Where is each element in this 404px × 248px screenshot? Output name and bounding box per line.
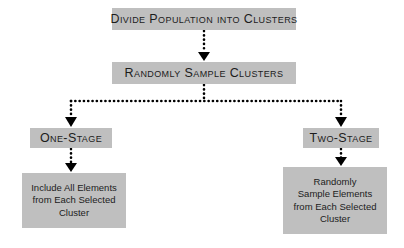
- arrowhead-one-stage: [65, 117, 77, 127]
- one-stage-detail-line-1: Include All Elements: [31, 182, 117, 195]
- node-divide-population: Divide Population into Clusters: [112, 8, 296, 30]
- one-stage-detail-line-2: from Each Selected: [33, 194, 116, 207]
- two-stage-detail-line-3: from Each Selected: [294, 201, 377, 214]
- node-two-stage-detail: Randomly Sample Elements from Each Selec…: [283, 167, 387, 234]
- two-stage-detail-line-1: Randomly: [314, 176, 357, 189]
- two-stage-detail-line-4: Cluster: [320, 213, 350, 226]
- cluster-sampling-flowchart: Divide Population into Clusters Randomly…: [0, 0, 404, 248]
- two-stage-detail-line-2: Sample Elements: [298, 188, 372, 201]
- arrowhead-two-stage: [335, 117, 347, 127]
- node-one-stage-detail: Include All Elements from Each Selected …: [22, 173, 126, 228]
- one-stage-detail-line-3: Cluster: [59, 207, 89, 220]
- arrowhead-two-stage-detail: [335, 157, 347, 166]
- node-two-stage: Two-Stage: [303, 128, 379, 148]
- node-randomly-sample-clusters: Randomly Sample Clusters: [112, 62, 296, 84]
- node-one-stage: One-Stage: [30, 128, 112, 148]
- arrowhead-one-stage-detail: [65, 163, 77, 172]
- arrowhead-randomly: [198, 52, 210, 61]
